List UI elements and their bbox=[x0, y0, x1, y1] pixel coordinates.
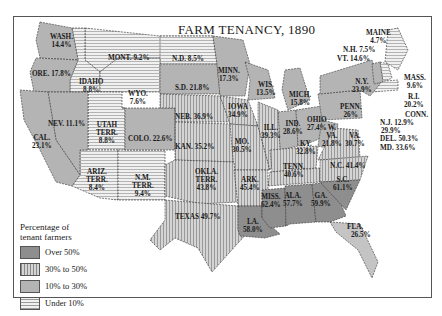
label-mich: MICH.15.8% bbox=[289, 91, 311, 107]
label-wva: W.VA.21.8% bbox=[322, 124, 342, 148]
label-del: DEL. 50.3% bbox=[380, 135, 418, 143]
label-kan: KAN. 35.2% bbox=[175, 143, 214, 151]
label-mass: MASS.9.6% bbox=[404, 74, 426, 90]
label-wyo: WYO.7.6% bbox=[128, 90, 148, 106]
label-la: LA.58.0% bbox=[243, 218, 263, 234]
label-sd: S.D. 21.8% bbox=[175, 84, 209, 92]
label-vt: VT. 14.6% bbox=[337, 55, 370, 63]
label-ri: R.I.20.2% bbox=[404, 93, 424, 109]
label-tenn: TENN.40.6% bbox=[283, 163, 305, 179]
label-neb: NEB. 36.9% bbox=[175, 113, 213, 121]
label-mont: MONT. 9.2% bbox=[108, 54, 150, 62]
label-miss: MISS.62.4% bbox=[261, 193, 281, 209]
label-ga: GA.59.9% bbox=[311, 192, 331, 208]
label-ny: N.Y.23.9% bbox=[352, 78, 372, 94]
legend-item-under-10: Under 10% bbox=[20, 296, 87, 310]
swatch-solid-dark bbox=[20, 246, 40, 259]
label-idaho: IDAHO8.8% bbox=[79, 78, 103, 94]
label-ariz: ARIZ.TERR.8.4% bbox=[86, 168, 108, 192]
swatch-horizontal-lines bbox=[20, 297, 40, 310]
region-kan bbox=[175, 122, 234, 162]
label-ind: IND.28.6% bbox=[283, 120, 303, 136]
swatch-solid-light bbox=[20, 280, 40, 293]
label-okla: OKLA.TERR.43.8% bbox=[195, 168, 218, 192]
label-conn: CONN. bbox=[405, 111, 428, 119]
label-cal: CAL.23.1% bbox=[32, 134, 52, 150]
region-colo bbox=[122, 108, 175, 150]
label-nc: N.C. 41.4% bbox=[330, 162, 366, 170]
legend-item-30-to-50: 30% to 50% bbox=[20, 262, 87, 276]
label-nh: N.H. 7.5% bbox=[343, 46, 375, 54]
label-iowa: IOWA34.9% bbox=[228, 103, 248, 119]
label-texas: TEXAS 49.7% bbox=[175, 213, 221, 221]
label-va: VA.30.7% bbox=[345, 132, 365, 148]
label-ky: KY.32.8% bbox=[296, 140, 316, 156]
legend-item-over-50: Over 50% bbox=[20, 245, 87, 259]
legend-title: Percentage of tenant farmers bbox=[20, 222, 87, 242]
label-minn: MINN.17.3% bbox=[218, 67, 240, 83]
region-texas bbox=[150, 200, 248, 272]
label-utah: UTAHTERR.8.8% bbox=[96, 121, 118, 145]
label-maine: MAINE4.7% bbox=[366, 29, 391, 45]
label-ore: ORE. 17.8% bbox=[32, 70, 71, 78]
swatch-vertical-lines bbox=[20, 263, 40, 276]
label-conn-value: 29.9% bbox=[381, 127, 401, 135]
label-nd: N.D. 8.5% bbox=[172, 55, 204, 63]
label-fla: FLA.26.5% bbox=[347, 223, 371, 239]
label-ill: ILL.39.3% bbox=[261, 124, 281, 140]
map-title: FARM TENANCY, 1890 bbox=[178, 22, 315, 38]
label-wis: WIS.13.5% bbox=[256, 81, 276, 97]
label-mo: MO.30.5% bbox=[232, 138, 252, 154]
label-colo: COLO. 22.6% bbox=[128, 135, 173, 143]
legend-item-10-to-30: 10% to 30% bbox=[20, 279, 87, 293]
label-nev: NEV. 11.1% bbox=[48, 120, 85, 128]
label-penn: PENN.26% bbox=[340, 103, 361, 119]
label-ark: ARK.45.4% bbox=[240, 176, 260, 192]
label-md: MD. 33.6% bbox=[380, 144, 415, 152]
label-nj: N.J. 12.9% bbox=[380, 119, 414, 127]
label-sc: S.C.61.1% bbox=[333, 176, 353, 192]
legend: Percentage of tenant farmers Over 50% 30… bbox=[20, 222, 87, 310]
label-ala: ALA.57.7% bbox=[283, 192, 303, 208]
label-nm: N.M.TERR.9.4% bbox=[132, 174, 154, 198]
label-wash: WASH.14.4% bbox=[50, 33, 73, 49]
